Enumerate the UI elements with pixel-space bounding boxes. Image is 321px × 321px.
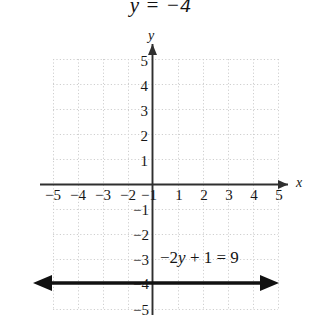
coordinate-plane-graph xyxy=(0,0,321,321)
y-tick-label-neg2: −2 xyxy=(133,228,157,243)
x-tick-label-1: 1 xyxy=(168,188,190,203)
equation-variable: y xyxy=(178,248,186,267)
equation-annotation: −2y + 1 = 9 xyxy=(160,248,239,268)
y-tick-label-neg5: −5 xyxy=(133,303,157,318)
y-tick-label-neg1: −1 xyxy=(133,203,157,218)
x-tick-label-2: 2 xyxy=(193,188,215,203)
y-tick-label-4: 4 xyxy=(126,79,148,94)
y-axis-label: y xyxy=(148,29,154,43)
x-axis-label: x xyxy=(296,176,302,190)
x-tick-label-neg2: −2 xyxy=(117,188,139,203)
equation-coefficient: −2 xyxy=(160,248,178,267)
y-tick-label-3: 3 xyxy=(126,104,148,119)
y-tick-label-5: 5 xyxy=(126,54,148,69)
x-tick-label-neg3: −3 xyxy=(92,188,114,203)
y-tick-label-1: 1 xyxy=(126,154,148,169)
x-tick-label-neg1: −1 xyxy=(138,188,160,203)
y-tick-label-neg4: −4 xyxy=(133,277,157,292)
equation-remainder: + 1 = 9 xyxy=(186,248,239,267)
x-tick-label-neg4: −4 xyxy=(67,188,89,203)
x-tick-label-3: 3 xyxy=(218,188,240,203)
x-tick-label-5: 5 xyxy=(268,188,290,203)
y-tick-label-2: 2 xyxy=(126,129,148,144)
x-tick-label-neg5: −5 xyxy=(42,188,64,203)
x-tick-label-4: 4 xyxy=(243,188,265,203)
y-tick-label-neg3: −3 xyxy=(133,253,157,268)
